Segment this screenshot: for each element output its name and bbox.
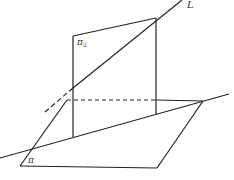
label-pi2: π2 <box>76 37 87 48</box>
label-L: L <box>186 0 194 10</box>
plane-pi-right-edge <box>157 101 203 168</box>
intersection-line <box>0 94 229 158</box>
label-pi: π <box>27 155 35 165</box>
plane-pi2-top-edge <box>73 18 156 36</box>
line-L <box>45 0 182 112</box>
label-pi2-subscript: 2 <box>83 41 87 48</box>
diagram-canvas: L π2 π <box>0 0 234 180</box>
plane-pi-back-edge-visible <box>156 100 203 101</box>
line-L-visible-part <box>73 0 182 88</box>
plane-pi-front-edge <box>20 166 157 168</box>
